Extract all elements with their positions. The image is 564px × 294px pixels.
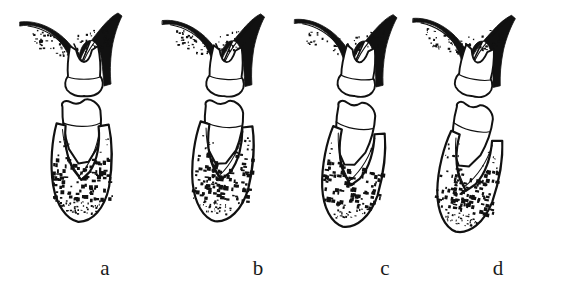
marrow-space-d-0 (467, 202, 472, 207)
panel-label-b: b (243, 258, 273, 279)
marrow-space-b-0 (219, 176, 224, 181)
marrow-space-c-0 (350, 193, 354, 198)
marrow-space-c-1 (355, 195, 359, 199)
marrow-space-c-2 (352, 187, 357, 192)
marrow-space-a-2 (84, 195, 89, 199)
marrow-space-b-2 (218, 185, 223, 190)
figure-container: a b c d (0, 0, 564, 294)
panel-label-c: c (370, 258, 400, 279)
marrow-space-a-0 (82, 177, 87, 180)
panel-label-d: d (483, 258, 513, 279)
marrow-space-a-1 (81, 185, 85, 189)
panel-label-a: a (90, 258, 120, 279)
marrow-space-b-1 (223, 186, 228, 191)
tooth-series-illustration (0, 0, 564, 294)
